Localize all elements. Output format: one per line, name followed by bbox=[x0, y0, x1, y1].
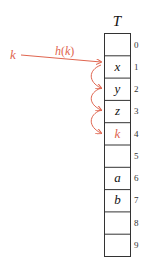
row-index-7: 7 bbox=[134, 195, 139, 205]
cell-value-4: k bbox=[115, 126, 121, 141]
row-index-9: 9 bbox=[134, 240, 139, 250]
probe-arrow-3-4 bbox=[91, 110, 101, 133]
probe-arrow-2-3 bbox=[91, 88, 101, 110]
row-index-1: 1 bbox=[134, 62, 139, 72]
cell-value-2: y bbox=[113, 81, 121, 96]
row-index-3: 3 bbox=[134, 106, 139, 116]
cell-value-7: b bbox=[114, 192, 121, 207]
row-index-0: 0 bbox=[134, 40, 139, 50]
row-index-5: 5 bbox=[134, 151, 139, 161]
key-label: k bbox=[10, 47, 16, 62]
cell-value-6: a bbox=[114, 170, 121, 185]
table-title: T bbox=[113, 13, 123, 29]
row-index-6: 6 bbox=[134, 173, 139, 183]
row-index-8: 8 bbox=[134, 218, 139, 228]
probe-arrow-1-2 bbox=[91, 65, 101, 88]
row-index-4: 4 bbox=[134, 129, 139, 139]
hash-function-label: h(k) bbox=[55, 44, 74, 58]
cell-value-3: z bbox=[114, 103, 120, 118]
hash-table-diagram: T x y z k a b 0 1 2 3 4 5 6 7 8 9 k h(k) bbox=[0, 0, 146, 267]
cell-value-1: x bbox=[114, 59, 121, 74]
row-index-2: 2 bbox=[134, 84, 139, 94]
